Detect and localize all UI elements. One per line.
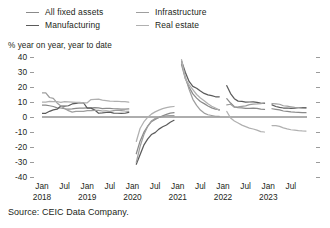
y-axis-tick-mark <box>30 57 34 58</box>
x-axis-labels: Jan2018JulJan2019JulJan2020JulJan2021Jul… <box>0 180 330 206</box>
y-axis-tick-mark <box>30 147 34 148</box>
x-axis-year-label: 2021 <box>164 193 192 202</box>
legend-swatch-infrastructure <box>136 12 149 13</box>
y-axis-tick-mark-right <box>316 147 320 148</box>
axis-unit-note: % year on year, year to date <box>8 41 112 50</box>
plot-area <box>42 57 307 177</box>
y-axis-tick-mark <box>30 102 34 103</box>
source-note: Source: CEIC Data Company. <box>8 207 129 217</box>
y-axis-tick-mark-right <box>316 162 320 163</box>
series-line <box>42 65 306 154</box>
legend-item-real-estate: Real estate <box>136 21 199 30</box>
chart-svg <box>42 57 307 177</box>
y-axis-tick-mark <box>30 87 34 88</box>
x-axis-year-label: 2019 <box>73 193 101 202</box>
x-axis-year-label: 2022 <box>209 193 237 202</box>
y-axis-tick-label: -30 <box>15 158 27 166</box>
y-axis-tick-mark <box>30 177 34 178</box>
y-axis-tick-label: -10 <box>15 128 27 136</box>
legend-swatch-all-fixed-assets <box>26 12 39 13</box>
y-axis-tick-mark-right <box>316 57 320 58</box>
x-axis-month-label: Jul <box>277 182 305 191</box>
legend-swatch-manufacturing <box>26 25 39 26</box>
legend-row-2: Manufacturing Real estate <box>26 19 316 32</box>
y-axis-tick-label: 10 <box>18 98 27 106</box>
legend-row-1: All fixed assets Infrastructure <box>26 6 316 19</box>
legend-label-real-estate: Real estate <box>155 21 199 30</box>
legend-label-infrastructure: Infrastructure <box>155 8 206 17</box>
y-axis-tick-label: 0 <box>22 113 27 121</box>
y-axis-tick-mark-right <box>316 177 320 178</box>
y-axis-tick-mark <box>30 117 34 118</box>
y-axis-tick-mark <box>30 132 34 133</box>
legend-label-all-fixed-assets: All fixed assets <box>45 8 103 17</box>
x-axis-year-label: 2018 <box>28 193 56 202</box>
y-axis-tick-mark <box>30 162 34 163</box>
legend-label-manufacturing: Manufacturing <box>45 21 100 30</box>
chart-legend: All fixed assets Infrastructure Manufact… <box>26 6 316 32</box>
y-axis-tick-mark <box>30 72 34 73</box>
legend-item-infrastructure: Infrastructure <box>136 8 206 17</box>
y-axis-tick-mark-right <box>316 132 320 133</box>
y-axis-tick-label: 40 <box>18 53 27 61</box>
chart-figure: All fixed assets Infrastructure Manufact… <box>0 0 330 228</box>
series-line <box>42 60 306 142</box>
y-axis-tick-label: 20 <box>18 83 27 91</box>
y-axis-tick-label: 30 <box>18 68 27 76</box>
legend-swatch-real-estate <box>136 25 149 26</box>
y-axis-tick-mark-right <box>316 102 320 103</box>
y-axis-tick-mark-right <box>316 72 320 73</box>
y-axis-tick-mark-right <box>316 87 320 88</box>
y-axis-tick-mark-right <box>316 117 320 118</box>
x-axis-year-label: 2020 <box>119 193 147 202</box>
legend-item-manufacturing: Manufacturing <box>26 21 136 30</box>
legend-item-all-fixed-assets: All fixed assets <box>26 8 136 17</box>
y-axis-labels: 403020100-10-20-30-40 <box>0 57 34 177</box>
x-axis-year-label: 2023 <box>254 193 282 202</box>
y-axis-tick-label: -20 <box>15 143 27 151</box>
